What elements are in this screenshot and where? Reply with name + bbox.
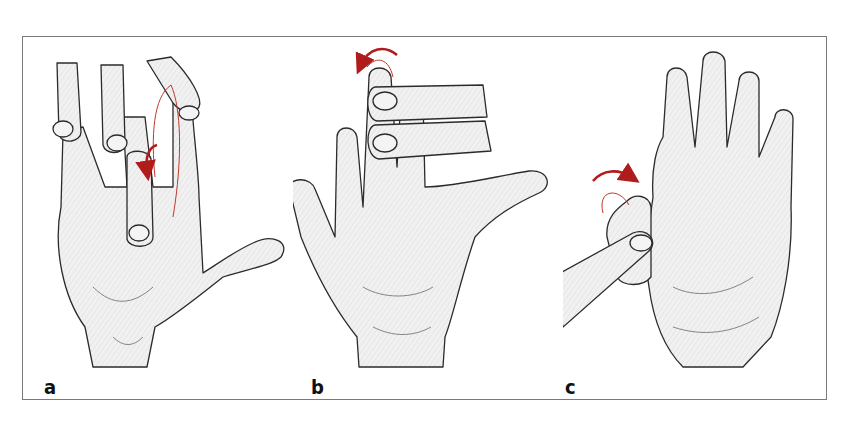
fingernail [107,135,127,151]
fingernail [129,225,149,241]
panel-a: a [23,37,293,399]
hand-illustration-b [293,37,563,401]
fingernail [53,121,73,137]
panel-label-a: a [44,377,56,397]
panel-b: b [293,37,563,399]
panel-c: c [563,37,828,399]
hand-illustration-a [23,37,293,401]
hand-illustration-c [563,37,828,401]
figure-frame: a b c [22,36,827,400]
extension-arrow-icon [361,49,397,65]
fingernail [630,235,652,251]
flexion-arrow-icon [593,171,631,181]
fingernail [373,92,397,110]
panel-label-b: b [311,377,324,397]
fingernail [179,106,199,120]
fingernail [373,134,397,152]
panel-label-c: c [565,377,576,397]
